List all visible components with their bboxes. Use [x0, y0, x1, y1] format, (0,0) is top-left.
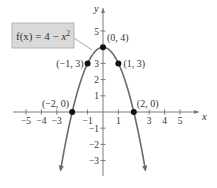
y-tick-label: −1: [89, 124, 99, 134]
y-axis-label: y: [93, 3, 99, 14]
y-tick-label: −2: [89, 140, 99, 150]
x-tick-label: −3: [52, 116, 62, 126]
curve-right-arrow-icon: [142, 165, 147, 171]
parabola-graph: −5−4−3−113455321−1−2−3 (−2, 0)(−1, 3)(0,…: [0, 0, 217, 188]
point-label: (−1, 3): [56, 58, 83, 70]
point-marker: [115, 60, 121, 66]
point-label: (−2, 0): [42, 98, 69, 110]
x-axis-label: x: [201, 111, 207, 122]
x-axis-arrow-icon: [194, 110, 199, 114]
y-tick-label: 5: [94, 27, 99, 37]
x-tick-label: −4: [36, 116, 46, 126]
y-tick-label: 3: [94, 59, 99, 69]
x-tick-label: 5: [178, 116, 183, 126]
function-label-text: f(x) = 4 − x2: [16, 29, 70, 43]
callout-pointer: [74, 38, 92, 50]
x-tick-label: 3: [147, 116, 152, 126]
y-tick-label: 1: [94, 91, 99, 101]
y-axis-arrow-icon: [101, 8, 105, 13]
point-marker: [131, 109, 137, 115]
x-tick-label: 4: [162, 116, 167, 126]
point-marker: [100, 44, 106, 50]
point-label: (1, 3): [123, 58, 145, 70]
point-label: (2, 0): [137, 98, 159, 110]
function-label-callout: f(x) = 4 − x2: [12, 23, 92, 50]
point-marker: [85, 60, 91, 66]
x-tick-label: −5: [21, 116, 31, 126]
y-tick-label: −3: [89, 156, 99, 166]
plot-canvas: −5−4−3−113455321−1−2−3 (−2, 0)(−1, 3)(0,…: [0, 0, 217, 188]
point-marker: [69, 109, 75, 115]
y-tick-label: 2: [94, 75, 99, 85]
point-label: (0, 4): [107, 32, 129, 44]
curve-left-arrow-icon: [59, 165, 64, 171]
x-tick-label: 1: [116, 116, 121, 126]
